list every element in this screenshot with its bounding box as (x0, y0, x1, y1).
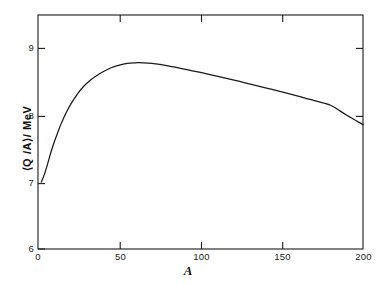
axis-frame (38, 15, 363, 249)
xtick-label-100: 100 (189, 251, 214, 262)
y-axis-label: ⟨Q /A⟩/ MeV (21, 69, 34, 209)
x-axis-label: A (0, 263, 376, 279)
x-axis-ticks (120, 15, 283, 249)
chart-plot-area (0, 0, 376, 285)
ytick-label-9: 9 (20, 42, 34, 53)
xtick-label-200: 200 (351, 251, 376, 262)
y-axis-ticks (38, 48, 363, 249)
figure-container: 9 8 7 6 0 50 100 150 200 ⟨Q /A⟩/ MeV A (0, 0, 376, 285)
xtick-label-50: 50 (110, 251, 131, 262)
xtick-label-0: 0 (30, 251, 46, 262)
xtick-label-150: 150 (270, 251, 295, 262)
plot-frame-rect (38, 15, 363, 249)
data-curve-binding-energy (41, 63, 363, 182)
